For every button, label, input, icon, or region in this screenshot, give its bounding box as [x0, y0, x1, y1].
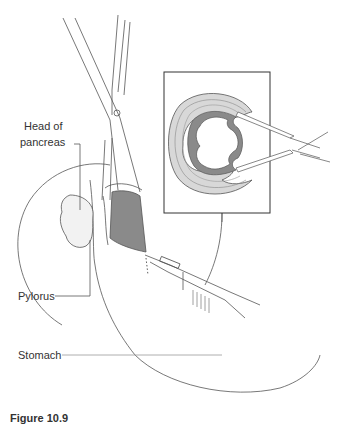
label-head-of-pancreas-line1: Head of — [24, 120, 63, 133]
pancreas-head — [60, 195, 93, 247]
stomach-outline — [95, 265, 320, 392]
label-head-of-pancreas-line2: pancreas — [20, 136, 65, 149]
pylorus-mucosa — [110, 191, 146, 252]
label-stomach: Stomach — [18, 349, 61, 362]
inset-cross-section — [164, 72, 330, 213]
figure-caption: Figure 10.9 — [10, 412, 68, 425]
label-pylorus: Pylorus — [18, 290, 55, 303]
forceps-shaft — [112, 15, 118, 115]
